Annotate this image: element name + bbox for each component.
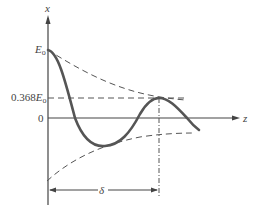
- dimension-arrow-right-icon: [151, 188, 158, 193]
- vertical-axis-arrow-icon: [46, 15, 51, 24]
- skin-depth-diagram: x z 0 Eo 0.368Eo δ: [0, 0, 257, 216]
- horizontal-axis-label: z: [242, 112, 248, 124]
- amplitude-label: Eo: [34, 43, 46, 57]
- vertical-axis-label: x: [44, 2, 50, 14]
- horizontal-axis-arrow-icon: [232, 116, 240, 121]
- decayed-amplitude-label: 0.368Eo: [11, 91, 46, 105]
- skin-depth-label: δ: [99, 184, 105, 196]
- dimension-arrow-left-icon: [49, 188, 56, 193]
- zero-label: 0: [38, 112, 44, 124]
